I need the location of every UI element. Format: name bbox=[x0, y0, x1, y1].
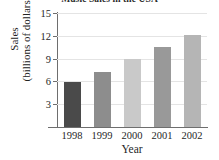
x-axis-tick-label: 1998 bbox=[62, 130, 83, 141]
x-axis-tick-label: 2002 bbox=[182, 130, 203, 141]
bar bbox=[154, 47, 171, 127]
x-axis-line bbox=[48, 127, 208, 128]
chart-screenshot: Music Sales in the USA Sales (billions o… bbox=[0, 0, 219, 160]
y-axis-tick-label: 12 bbox=[41, 30, 52, 41]
bar bbox=[124, 59, 141, 127]
y-axis-tick-label: 9 bbox=[46, 53, 51, 64]
y-axis-tick-label: 15 bbox=[41, 8, 52, 19]
x-axis-tick-label: 1999 bbox=[92, 130, 113, 141]
y-axis-title: Sales (billions of dollars) bbox=[8, 0, 34, 85]
bars-container bbox=[57, 13, 207, 127]
bar bbox=[64, 82, 81, 127]
bar bbox=[184, 35, 201, 127]
y-axis-title-line2: (billions of dollars) bbox=[21, 0, 33, 81]
x-axis-tick-label: 2000 bbox=[122, 130, 143, 141]
bar bbox=[94, 72, 111, 127]
y-axis-tick-label: 6 bbox=[46, 76, 51, 87]
y-axis-tick-label: 3 bbox=[46, 99, 51, 110]
x-axis-tick-label: 2001 bbox=[152, 130, 173, 141]
x-axis-title: Year bbox=[57, 143, 207, 155]
